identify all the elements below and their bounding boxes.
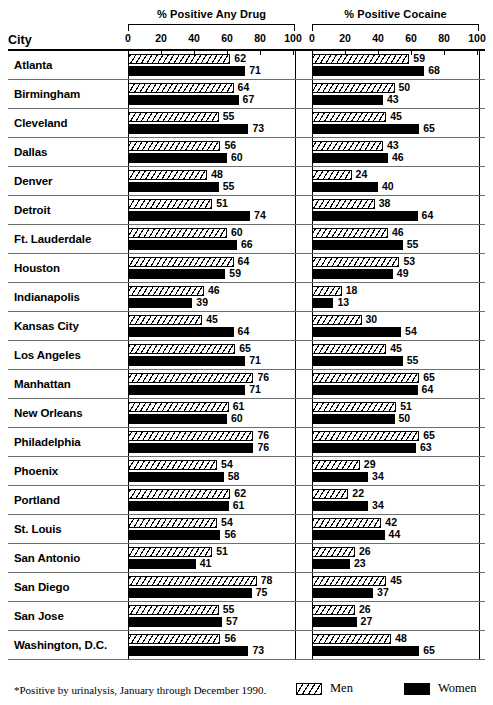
bar-women bbox=[128, 66, 245, 76]
bar-pair-slot: 45 bbox=[128, 315, 333, 326]
chart-row: San Antonio51412623 bbox=[0, 544, 493, 573]
chart-row: Cleveland55734565 bbox=[0, 109, 493, 138]
bar-value-label: 59 bbox=[413, 52, 425, 64]
bar-value-label: 60 bbox=[231, 412, 243, 424]
bar-women bbox=[312, 95, 383, 105]
bar-women bbox=[312, 559, 350, 569]
bar-women bbox=[128, 646, 248, 656]
bar-value-label: 66 bbox=[241, 238, 253, 250]
bar-women bbox=[312, 646, 419, 656]
bar-value-label: 64 bbox=[238, 81, 250, 93]
bar-pair-slot: 64 bbox=[128, 327, 333, 338]
bar-women bbox=[312, 182, 378, 192]
bar-women bbox=[128, 501, 229, 511]
chart-figure: % Positive Any Drug % Positive Cocaine C… bbox=[0, 0, 493, 705]
bar-pair-slot: 59 bbox=[312, 54, 493, 65]
bar-value-label: 51 bbox=[216, 545, 228, 557]
bar-pair-slot: 71 bbox=[128, 385, 333, 396]
bar-pair-slot: 50 bbox=[312, 83, 493, 94]
chart-row: Dallas56604346 bbox=[0, 138, 493, 167]
bar-men bbox=[312, 141, 383, 151]
bar-pair-slot: 55 bbox=[128, 182, 333, 193]
bar-value-label: 65 bbox=[239, 342, 251, 354]
bar-men bbox=[128, 315, 202, 325]
bar-pair-slot: 60 bbox=[128, 228, 333, 239]
bar-women bbox=[312, 588, 373, 598]
bar-value-label: 54 bbox=[221, 458, 233, 470]
bar-men bbox=[312, 605, 355, 615]
bar-value-label: 46 bbox=[208, 284, 220, 296]
bar-pair-slot: 64 bbox=[312, 385, 493, 396]
bar-pair-slot: 49 bbox=[312, 269, 493, 280]
bar-group-cocaine: 5150 bbox=[312, 402, 493, 425]
bar-value-label: 18 bbox=[346, 284, 358, 296]
city-label: New Orleans bbox=[14, 407, 83, 419]
bar-pair-slot: 71 bbox=[128, 356, 333, 367]
bar-men bbox=[128, 286, 204, 296]
bar-men bbox=[312, 460, 360, 470]
bar-women bbox=[312, 153, 388, 163]
bar-value-label: 60 bbox=[231, 226, 243, 238]
bar-pair-slot: 22 bbox=[312, 489, 493, 500]
bar-pair-slot: 34 bbox=[312, 472, 493, 483]
bar-women bbox=[128, 385, 245, 395]
bar-pair-slot: 48 bbox=[312, 634, 493, 645]
bar-pair-slot: 62 bbox=[128, 489, 333, 500]
bar-value-label: 53 bbox=[403, 255, 415, 267]
bar-group-cocaine: 4537 bbox=[312, 576, 493, 599]
bar-value-label: 62 bbox=[234, 487, 246, 499]
bar-pair-slot: 76 bbox=[128, 431, 333, 442]
bar-women bbox=[128, 298, 192, 308]
bar-group-cocaine: 6563 bbox=[312, 431, 493, 454]
bar-value-label: 48 bbox=[395, 632, 407, 644]
bar-group-cocaine: 4565 bbox=[312, 112, 493, 135]
chart-row: Philadelphia76766563 bbox=[0, 428, 493, 457]
bar-men bbox=[128, 431, 253, 441]
bar-value-label: 54 bbox=[221, 516, 233, 528]
bar-value-label: 56 bbox=[224, 528, 236, 540]
bar-value-label: 55 bbox=[407, 354, 419, 366]
bar-women bbox=[128, 443, 253, 453]
bar-group-any_drug: 6261 bbox=[128, 489, 333, 512]
bar-pair-slot: 54 bbox=[312, 327, 493, 338]
bar-group-cocaine: 3864 bbox=[312, 199, 493, 222]
chart-row: Houston64595349 bbox=[0, 254, 493, 283]
bar-value-label: 61 bbox=[233, 400, 245, 412]
bar-value-label: 54 bbox=[405, 325, 417, 337]
bar-pair-slot: 23 bbox=[312, 559, 493, 570]
bar-pair-slot: 43 bbox=[312, 95, 493, 106]
bar-women bbox=[312, 530, 385, 540]
bar-pair-slot: 27 bbox=[312, 617, 493, 628]
bar-group-any_drug: 5673 bbox=[128, 634, 333, 657]
bar-pair-slot: 51 bbox=[128, 547, 333, 558]
bar-pair-slot: 57 bbox=[128, 617, 333, 628]
axis-tick-label: 20 bbox=[339, 32, 351, 44]
bar-value-label: 34 bbox=[372, 470, 384, 482]
legend-label-women: Women bbox=[438, 681, 477, 696]
bar-value-label: 65 bbox=[423, 371, 435, 383]
legend-swatch-men bbox=[296, 683, 322, 695]
bar-pair-slot: 56 bbox=[128, 530, 333, 541]
bar-value-label: 73 bbox=[252, 122, 264, 134]
bar-group-any_drug: 5174 bbox=[128, 199, 333, 222]
bar-pair-slot: 13 bbox=[312, 298, 493, 309]
bar-pair-slot: 65 bbox=[312, 124, 493, 135]
bar-group-any_drug: 6271 bbox=[128, 54, 333, 77]
axis-tick-label: 100 bbox=[468, 32, 486, 44]
panel-title-any-drug: % Positive Any Drug bbox=[128, 8, 295, 20]
bar-pair-slot: 55 bbox=[128, 112, 333, 123]
bar-value-label: 64 bbox=[238, 325, 250, 337]
bar-value-label: 64 bbox=[238, 255, 250, 267]
bar-value-label: 71 bbox=[249, 64, 261, 76]
bar-value-label: 38 bbox=[379, 197, 391, 209]
bar-women bbox=[128, 617, 222, 627]
bar-women bbox=[128, 530, 220, 540]
bar-men bbox=[128, 344, 235, 354]
bar-value-label: 46 bbox=[392, 151, 404, 163]
chart-row: Kansas City45643054 bbox=[0, 312, 493, 341]
bar-pair-slot: 76 bbox=[128, 373, 333, 384]
bar-pair-slot: 65 bbox=[312, 646, 493, 657]
bar-women bbox=[312, 385, 418, 395]
bar-pair-slot: 76 bbox=[128, 443, 333, 454]
bar-value-label: 76 bbox=[257, 441, 269, 453]
